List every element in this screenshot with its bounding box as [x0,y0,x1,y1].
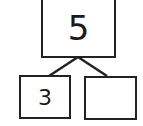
connector-left [49,57,78,76]
whole-box: 5 [41,0,116,58]
whole-value: 5 [68,8,90,48]
connector-right [78,57,107,76]
part-box-right-empty[interactable] [84,76,137,120]
part-left-value: 3 [38,85,52,110]
part-box-left: 3 [19,75,71,119]
